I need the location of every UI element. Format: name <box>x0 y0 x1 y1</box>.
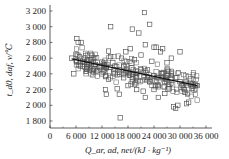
data-point <box>104 92 108 96</box>
data-point <box>128 47 132 51</box>
x-tick-label: 0 <box>48 131 53 141</box>
data-point <box>80 46 84 50</box>
x-tick-label: 12 000 <box>90 131 115 141</box>
data-point <box>155 62 159 66</box>
data-point <box>108 25 112 29</box>
x-tick-label: 18 000 <box>116 131 141 141</box>
y-tick-label: 2 000 <box>26 100 47 110</box>
y-tick-label: 1 800 <box>26 116 47 126</box>
y-tick-label: 3 000 <box>26 22 47 32</box>
data-point <box>143 43 147 47</box>
data-point <box>165 61 169 65</box>
data-point <box>143 95 147 99</box>
data-point <box>126 83 130 87</box>
data-point <box>130 27 134 31</box>
data-point <box>156 95 160 99</box>
data-point <box>103 87 107 91</box>
data-point <box>118 116 122 120</box>
x-tick-label: 36 000 <box>194 131 219 141</box>
y-tick-label: 2 800 <box>26 37 47 47</box>
data-point <box>152 87 156 91</box>
data-point <box>106 49 110 53</box>
x-tick-label: 6 000 <box>66 131 87 141</box>
data-point <box>150 59 154 63</box>
data-point <box>79 40 83 44</box>
y-tick-label: 3 200 <box>26 6 47 16</box>
data-point <box>95 74 99 78</box>
data-point <box>147 22 151 26</box>
scatter-chart: 1 8002 0002 2002 4002 6002 8003 0003 200… <box>0 0 229 159</box>
data-point <box>115 87 119 91</box>
data-point <box>142 10 146 14</box>
data-point <box>124 50 128 54</box>
data-point <box>141 89 145 93</box>
data-points <box>69 10 199 120</box>
data-point <box>191 71 195 75</box>
data-point <box>195 98 199 102</box>
data-point <box>117 92 121 96</box>
data-point <box>169 56 173 60</box>
data-point <box>130 66 134 70</box>
y-axis-label: t_d0, daf, v/℃ <box>4 43 14 97</box>
y-tick-label: 2 400 <box>26 69 47 79</box>
data-point <box>139 53 143 57</box>
data-point <box>134 87 138 91</box>
x-tick-label: 30 000 <box>168 131 193 141</box>
data-point <box>130 65 134 69</box>
x-tick-label: 24 000 <box>142 131 167 141</box>
data-point <box>74 47 78 51</box>
data-point <box>129 56 133 60</box>
y-tick-label: 2 600 <box>26 53 47 63</box>
x-axis-label: Q_ar, ad, net/(kJ · kg⁻¹) <box>85 145 171 155</box>
y-tick-label: 2 200 <box>26 85 47 95</box>
data-point <box>163 91 167 95</box>
data-point <box>72 72 76 76</box>
data-point <box>137 31 141 35</box>
data-point <box>114 80 118 84</box>
data-point <box>175 75 179 79</box>
data-point <box>178 50 182 54</box>
